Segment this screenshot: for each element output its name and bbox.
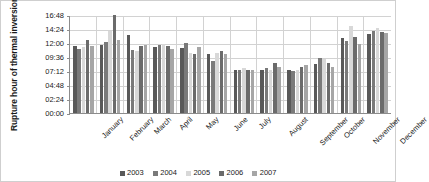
x-tick-label: March (152, 115, 173, 136)
bar (273, 63, 277, 113)
x-tick-label: August (287, 115, 310, 138)
bar (189, 53, 193, 113)
bar (166, 46, 170, 113)
plot-area (69, 16, 391, 114)
x-tick-label: January (100, 115, 125, 140)
y-tick-label: 04:48 (30, 82, 64, 90)
y-axis-title: Rupture hour of thermal inversion (1, 1, 27, 126)
bar (90, 46, 94, 113)
bar-group-april (150, 16, 177, 113)
y-tick-label: 16:48 (30, 12, 64, 20)
bar (104, 42, 108, 113)
x-tick-label: April (177, 115, 194, 132)
bar-group-may (177, 16, 204, 113)
x-axis-tick-labels: JanuaryFebruaryMarchAprilMayJuneJulyAugu… (69, 115, 391, 157)
bar (73, 46, 77, 113)
bar (220, 51, 224, 113)
bar (265, 68, 269, 113)
bar (207, 54, 211, 113)
bar (269, 70, 273, 113)
bar (86, 40, 90, 113)
legend-swatch (153, 171, 158, 176)
bar (358, 44, 362, 113)
bar (322, 59, 326, 113)
bar-group-march (124, 16, 151, 113)
bar (117, 40, 121, 114)
bar (131, 50, 135, 113)
bar (215, 53, 219, 113)
bar-group-january (70, 16, 97, 113)
bar (113, 15, 117, 113)
y-tick-label: 14:24 (30, 26, 64, 34)
legend-label: 2004 (160, 169, 177, 177)
legend-item-2004[interactable]: 2004 (153, 169, 177, 177)
bar (277, 67, 281, 113)
legend-item-2005[interactable]: 2005 (186, 169, 210, 177)
legend-swatch (120, 171, 125, 176)
bar (180, 48, 184, 113)
bar (127, 35, 131, 113)
legend-swatch (219, 171, 224, 176)
bar (135, 51, 139, 113)
bar-group-february (97, 16, 124, 113)
legend-item-2007[interactable]: 2007 (252, 169, 276, 177)
bar (224, 54, 228, 114)
bar (211, 61, 215, 113)
bar (318, 58, 322, 113)
bar (100, 45, 104, 113)
bar (260, 70, 264, 113)
bar (345, 41, 349, 113)
bar (108, 31, 112, 113)
y-tick-label: 09:36 (30, 54, 64, 62)
bar (300, 67, 304, 113)
bar (153, 47, 157, 114)
bar-group-august (257, 16, 284, 113)
bar (184, 43, 188, 113)
bar (367, 34, 371, 113)
legend-label: 2006 (227, 169, 244, 177)
bar (251, 70, 255, 113)
bar (170, 49, 174, 113)
bar (234, 70, 238, 113)
legend-item-2006[interactable]: 2006 (219, 169, 243, 177)
bar (327, 63, 331, 113)
bar (376, 28, 380, 113)
y-tick-label: 12:00 (30, 40, 64, 48)
bar (372, 31, 376, 113)
bar (380, 32, 384, 113)
bar (193, 54, 197, 113)
legend-item-2003[interactable]: 2003 (120, 169, 144, 177)
legend-swatch (186, 171, 191, 176)
legend-swatch (252, 171, 257, 176)
bar (287, 70, 291, 113)
bar (384, 33, 388, 113)
bar (238, 70, 242, 113)
legend: 20032004200520062007 (1, 169, 395, 177)
bar (296, 70, 300, 113)
bar-group-october (311, 16, 338, 113)
bar (246, 70, 250, 113)
bar (144, 45, 148, 113)
bar (82, 47, 86, 113)
bar (77, 49, 81, 113)
bar (242, 68, 246, 113)
bar (158, 45, 162, 113)
bars-layer (70, 16, 391, 113)
bar-group-december (364, 16, 391, 113)
bar (314, 64, 318, 113)
x-tick-label: November (371, 115, 402, 146)
legend-label: 2003 (127, 169, 144, 177)
y-tick-label: 00:00 (30, 110, 64, 118)
y-tick-label: 07:12 (30, 68, 64, 76)
bar (331, 67, 335, 113)
bar (291, 71, 295, 113)
bar (139, 46, 143, 113)
bar-group-november (338, 16, 365, 113)
x-tick-label: July (257, 115, 273, 131)
bar-group-september (284, 16, 311, 113)
bar (162, 44, 166, 113)
y-axis-title-text: Rupture hour of thermal inversion (9, 0, 19, 131)
bar (197, 47, 201, 113)
y-tick-label: 02:24 (30, 96, 64, 104)
